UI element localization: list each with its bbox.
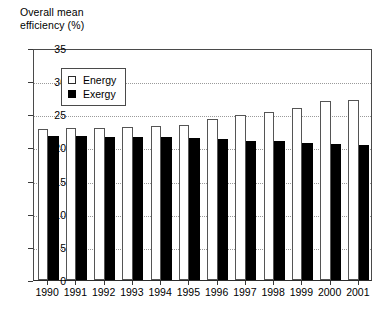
bar-exergy bbox=[133, 137, 144, 280]
y-axis-label: 35 bbox=[40, 43, 66, 55]
bar-exergy bbox=[359, 145, 370, 280]
efficiency-bar-chart: Overall mean efficiency (%) 051015202530… bbox=[0, 0, 384, 311]
bar-group bbox=[151, 50, 172, 280]
bar-exergy bbox=[76, 136, 87, 281]
bar-energy bbox=[66, 128, 77, 280]
legend-label-energy: Energy bbox=[83, 74, 116, 86]
y-axis-label: 10 bbox=[40, 209, 66, 221]
bar-energy bbox=[292, 108, 303, 280]
x-axis-tick bbox=[358, 281, 359, 285]
bar-group bbox=[207, 50, 228, 280]
bar-exergy bbox=[331, 144, 342, 280]
bar-exergy bbox=[246, 141, 257, 280]
bar-exergy bbox=[189, 138, 200, 281]
bar-group bbox=[348, 50, 369, 280]
y-axis-tick bbox=[28, 82, 33, 83]
bar-energy bbox=[207, 119, 218, 280]
y-axis-label: 5 bbox=[40, 242, 66, 254]
y-axis-tick bbox=[28, 215, 33, 216]
bar-exergy bbox=[105, 137, 116, 280]
x-axis-tick bbox=[75, 281, 76, 285]
x-axis-tick bbox=[160, 281, 161, 285]
y-axis-tick bbox=[28, 182, 33, 183]
x-axis-tick bbox=[132, 281, 133, 285]
legend-item-energy: Energy bbox=[68, 73, 116, 87]
y-axis-tick bbox=[28, 115, 33, 116]
bar-energy bbox=[235, 115, 246, 280]
x-axis-tick bbox=[245, 281, 246, 285]
y-axis-label: 15 bbox=[40, 176, 66, 188]
bar-exergy bbox=[218, 139, 229, 280]
x-axis-tick bbox=[301, 281, 302, 285]
legend-item-exergy: Exergy bbox=[68, 87, 116, 101]
x-axis-tick bbox=[104, 281, 105, 285]
x-axis-label: 2001 bbox=[341, 286, 375, 298]
bar-group bbox=[292, 50, 313, 280]
y-axis-tick bbox=[28, 49, 33, 50]
bar-energy bbox=[94, 128, 105, 280]
y-axis-tick bbox=[28, 281, 33, 282]
bar-energy bbox=[264, 112, 275, 280]
bar-group bbox=[235, 50, 256, 280]
bar-group bbox=[320, 50, 341, 280]
bar-energy bbox=[348, 100, 359, 280]
bar-group bbox=[264, 50, 285, 280]
legend-swatch-exergy-icon bbox=[68, 90, 76, 98]
bar-energy bbox=[320, 101, 331, 280]
bar-exergy bbox=[274, 141, 285, 280]
chart-legend: Energy Exergy bbox=[61, 68, 126, 106]
y-axis-tick bbox=[28, 248, 33, 249]
x-axis-tick bbox=[217, 281, 218, 285]
y-axis-tick bbox=[28, 148, 33, 149]
axis-title: Overall mean efficiency (%) bbox=[20, 6, 84, 31]
bar-energy bbox=[151, 126, 162, 280]
x-axis-tick bbox=[188, 281, 189, 285]
x-axis-tick bbox=[330, 281, 331, 285]
bar-exergy bbox=[161, 137, 172, 280]
legend-swatch-energy-icon bbox=[68, 76, 76, 84]
bar-energy bbox=[122, 127, 133, 280]
x-axis-tick bbox=[47, 281, 48, 285]
bar-exergy bbox=[302, 143, 313, 280]
legend-label-exergy: Exergy bbox=[83, 88, 116, 100]
x-axis-tick bbox=[273, 281, 274, 285]
y-axis-label: 25 bbox=[40, 109, 66, 121]
bar-energy bbox=[179, 125, 190, 280]
y-axis-label: 20 bbox=[40, 142, 66, 154]
bar-group bbox=[179, 50, 200, 280]
